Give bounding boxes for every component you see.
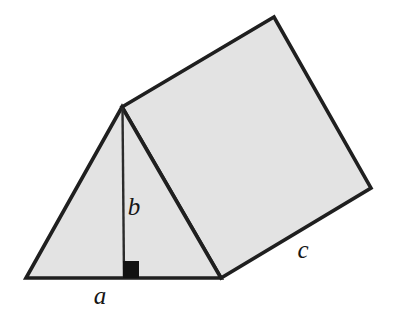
geometry-diagram-canvas: a b c [0,0,399,318]
label-base-a: a [94,283,107,308]
label-height-b: b [128,194,141,219]
altitude-segment [123,108,125,278]
triangular-prism-figure [0,0,399,318]
right-angle-square [123,261,139,278]
label-length-c: c [297,237,308,262]
